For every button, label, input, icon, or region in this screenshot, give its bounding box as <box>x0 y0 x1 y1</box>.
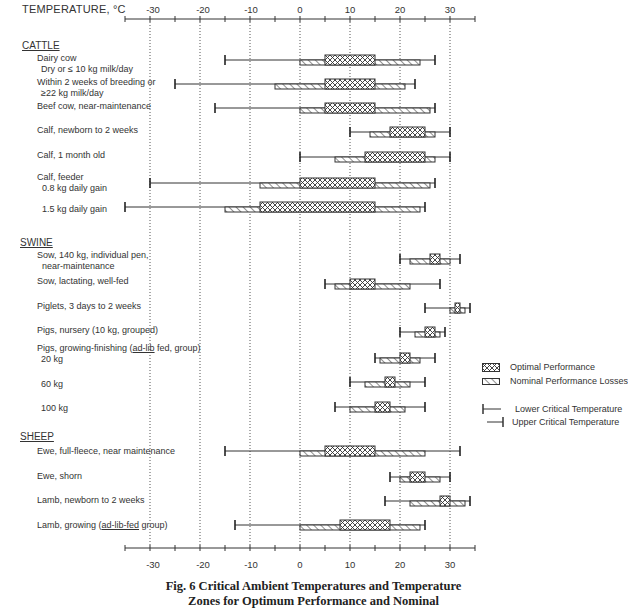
range-bar <box>375 353 435 363</box>
legend-upper: Upper Critical Temperature <box>512 417 619 427</box>
group-title-cattle: CATTLE <box>22 40 60 51</box>
row-label-calf-newborn: Calf, newborn to 2 weeks <box>37 125 138 136</box>
range-bar <box>125 202 425 212</box>
range-bar <box>175 79 415 89</box>
range-bar <box>400 254 460 264</box>
range-bar <box>335 402 425 412</box>
row-label-lamb-growing: Lamb, growing (ad-lib-fed group) <box>37 520 168 531</box>
row-label-sow-140: Sow, 140 kg, individual pen,near-mainten… <box>37 250 149 272</box>
row-label-ewe-shorn: Ewe, shorn <box>37 471 82 482</box>
row-label-lamb-newborn: Lamb, newborn to 2 weeks <box>37 495 145 506</box>
optimal-swatch-icon <box>482 363 504 373</box>
row-label-sow-lactating: Sow, lactating, well-fed <box>37 276 129 287</box>
range-bar <box>150 178 435 188</box>
range-bar <box>300 152 450 162</box>
range-bar <box>235 520 425 530</box>
row-label-1-5-kg: 1.5 kg daily gain <box>42 204 107 215</box>
range-bar <box>350 377 425 387</box>
legend-nominal: Nominal Performance Losses <box>510 376 628 386</box>
legend-lower: Lower Critical Temperature <box>515 404 622 414</box>
row-label-ewe-full-fleece: Ewe, full-fleece, near maintenance <box>37 446 175 457</box>
lower-critical-icon <box>482 403 506 415</box>
row-label-beef-cow: Beef cow, near-maintenance <box>37 101 151 112</box>
row-label-piglets: Piglets, 3 days to 2 weeks <box>37 301 141 312</box>
row-label-100-kg: 100 kg <box>41 403 68 414</box>
range-bar <box>425 303 470 313</box>
range-bar <box>225 55 435 65</box>
row-label-pigs-growing: Pigs, growing-finishing (ad-lib fed, gro… <box>37 343 201 365</box>
row-label-60-kg: 60 kg <box>41 379 63 390</box>
range-bar <box>385 496 470 506</box>
group-title-swine: SWINE <box>20 237 53 248</box>
nominal-swatch-icon <box>482 377 504 387</box>
range-bar <box>400 327 445 337</box>
row-label-dairy-cow: Dairy cowDry or ≤ 10 kg milk/day <box>37 53 133 75</box>
row-label-calf-feeder: Calf, feeder0.8 kg daily gain <box>37 172 107 194</box>
range-bar <box>225 446 460 456</box>
bars <box>125 55 470 530</box>
range-bar <box>325 279 440 289</box>
range-bar <box>215 103 435 113</box>
row-label-calf-1-month: Calf, 1 month old <box>37 150 105 161</box>
range-bar <box>390 472 450 482</box>
group-title-sheep: SHEEP <box>20 431 54 442</box>
legend-optimal: Optimal Performance <box>510 362 595 372</box>
figure-caption: Fig. 6 Critical Ambient Temperatures and… <box>0 579 627 609</box>
range-bar <box>350 127 450 137</box>
upper-critical-icon <box>486 416 510 428</box>
row-label-breeding: Within 2 weeks of breeding or≥22 kg milk… <box>37 77 156 99</box>
row-label-pigs-nursery: Pigs, nursery (10 kg, grouped) <box>37 325 158 336</box>
